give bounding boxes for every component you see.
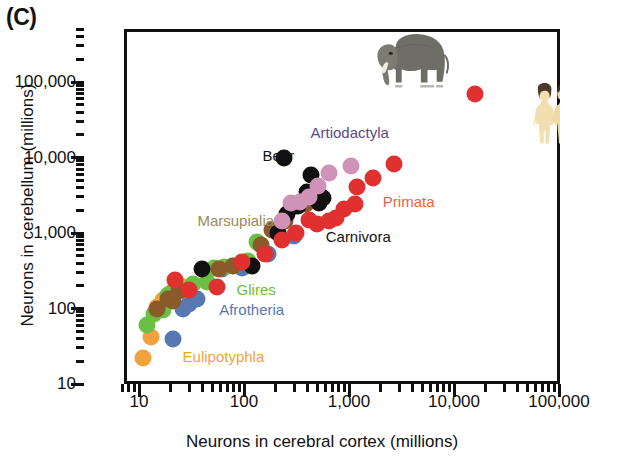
y-tick bbox=[76, 133, 84, 136]
y-tick bbox=[76, 173, 84, 176]
group-label-eulipotyphla: Eulipotyphla bbox=[183, 348, 265, 365]
x-tick-label: 100,000 bbox=[528, 392, 589, 412]
y-tick bbox=[76, 88, 84, 91]
x-tick bbox=[169, 384, 172, 392]
y-tick-label: 100 bbox=[48, 299, 76, 319]
y-tick bbox=[76, 360, 84, 363]
y-tick bbox=[76, 284, 84, 287]
data-point bbox=[194, 261, 211, 278]
y-tick bbox=[76, 58, 84, 61]
x-tick-label: 1,000 bbox=[328, 392, 371, 412]
x-tick bbox=[211, 384, 214, 392]
y-tick bbox=[76, 159, 84, 162]
x-tick bbox=[226, 384, 229, 392]
human-pair-icon bbox=[524, 83, 560, 146]
group-label-glires: Glires bbox=[237, 281, 276, 298]
y-tick bbox=[76, 310, 84, 313]
x-tick bbox=[121, 384, 124, 392]
y-tick bbox=[76, 92, 84, 95]
y-tick bbox=[76, 163, 84, 166]
figure-panel-c: (C) 101001,00010,000100,000 101001,00010… bbox=[0, 0, 644, 471]
x-tick bbox=[219, 384, 222, 392]
x-tick bbox=[411, 384, 414, 392]
y-tick bbox=[76, 186, 84, 189]
y-tick bbox=[76, 262, 84, 265]
x-tick bbox=[293, 384, 296, 392]
y-tick bbox=[76, 168, 84, 171]
data-point bbox=[343, 158, 360, 175]
y-tick bbox=[76, 337, 84, 340]
x-tick bbox=[503, 384, 506, 392]
x-tick bbox=[188, 384, 191, 392]
data-point bbox=[287, 225, 304, 242]
x-tick bbox=[541, 384, 544, 392]
y-tick bbox=[76, 35, 84, 38]
x-tick bbox=[547, 384, 550, 392]
x-tick bbox=[436, 384, 439, 392]
x-tick bbox=[398, 384, 401, 392]
group-label-carnivora: Carnivora bbox=[326, 228, 391, 245]
data-point bbox=[365, 170, 382, 187]
y-tick bbox=[76, 97, 84, 100]
y-tick bbox=[76, 195, 84, 198]
data-point bbox=[257, 246, 274, 263]
x-tick bbox=[516, 384, 519, 392]
x-tick bbox=[343, 384, 346, 392]
group-label-marsupialia: Marsupialia bbox=[197, 212, 274, 229]
y-axis-title: Neurons in cerebellum (millions) bbox=[18, 25, 38, 385]
y-tick-label: 1,000 bbox=[33, 223, 76, 243]
y-tick bbox=[76, 111, 84, 114]
y-tick bbox=[76, 254, 84, 257]
x-tick bbox=[324, 384, 327, 392]
x-tick bbox=[526, 384, 529, 392]
y-tick bbox=[76, 346, 84, 349]
x-tick bbox=[201, 384, 204, 392]
x-tick bbox=[379, 384, 382, 392]
x-tick bbox=[484, 384, 487, 392]
data-point bbox=[164, 330, 181, 347]
group-label-artiodactyla: Artiodactyla bbox=[311, 124, 389, 141]
y-tick bbox=[76, 330, 84, 333]
y-tick bbox=[76, 248, 84, 251]
y-tick bbox=[76, 84, 84, 87]
y-tick-label: 10 bbox=[57, 374, 76, 394]
group-label-bear: Bear bbox=[262, 147, 294, 164]
data-point bbox=[347, 196, 364, 213]
y-tick bbox=[76, 209, 84, 212]
data-point bbox=[386, 156, 403, 173]
y-tick bbox=[76, 179, 84, 182]
y-tick bbox=[76, 314, 84, 317]
y-tick bbox=[76, 271, 84, 274]
data-point bbox=[208, 279, 225, 296]
x-tick bbox=[553, 384, 556, 392]
group-label-afrotheria: Afrotheria bbox=[219, 301, 284, 318]
x-tick bbox=[429, 384, 432, 392]
group-label-primata: Primata bbox=[383, 193, 435, 210]
y-tick bbox=[76, 28, 84, 31]
x-tick bbox=[127, 384, 130, 392]
x-tick-label: 10,000 bbox=[428, 392, 480, 412]
data-point bbox=[135, 350, 152, 367]
data-point bbox=[467, 86, 484, 103]
x-tick bbox=[337, 384, 340, 392]
scatter-plot-area: EulipotyphlaAfrotheriaGliresMarsupialiaC… bbox=[124, 29, 560, 384]
data-point bbox=[233, 254, 250, 271]
y-tick bbox=[76, 239, 84, 242]
x-tick bbox=[331, 384, 334, 392]
x-tick bbox=[448, 384, 451, 392]
data-point bbox=[349, 178, 366, 195]
y-tick bbox=[76, 319, 84, 322]
x-tick-label: 100 bbox=[230, 392, 258, 412]
y-tick bbox=[76, 324, 84, 327]
y-tick bbox=[76, 44, 84, 47]
x-tick bbox=[442, 384, 445, 392]
data-point bbox=[181, 282, 198, 299]
elephant-icon bbox=[370, 30, 455, 90]
data-point bbox=[320, 165, 337, 182]
y-tick bbox=[76, 103, 84, 106]
x-axis-title: Neurons in cerebral cortex (millions) bbox=[0, 432, 644, 452]
x-tick bbox=[306, 384, 309, 392]
x-tick bbox=[316, 384, 319, 392]
y-tick bbox=[76, 120, 84, 123]
x-tick bbox=[133, 384, 136, 392]
